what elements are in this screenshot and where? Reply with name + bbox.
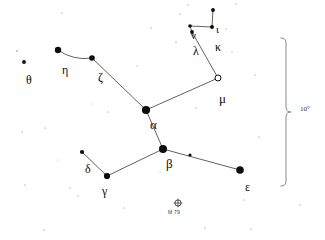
scale-label: 10°	[300, 106, 310, 113]
background-star	[58, 160, 59, 161]
dso-m79[interactable]	[174, 199, 183, 208]
scale-brace	[281, 38, 291, 186]
star-label-gamma: γ	[102, 185, 107, 197]
background-star	[180, 14, 181, 15]
background-star	[300, 205, 301, 206]
background-star	[25, 185, 26, 186]
dso-label-m79: M 79	[168, 210, 180, 215]
star-iota[interactable]	[211, 8, 215, 12]
star-kappa[interactable]	[210, 25, 214, 29]
background-star	[255, 75, 256, 76]
background-star	[70, 188, 71, 189]
background-star	[250, 228, 251, 229]
star-epsilon[interactable]	[236, 166, 244, 174]
background-star	[137, 66, 138, 67]
background-star	[196, 108, 197, 109]
star-layer	[22, 8, 244, 179]
background-star	[16, 50, 17, 51]
star-beta-epsilon-midstar[interactable]	[188, 153, 191, 156]
star-label-lambda: λ	[193, 45, 199, 57]
star-gamma[interactable]	[104, 173, 110, 179]
constellation-line-eta-zeta	[58, 50, 92, 59]
star-beta[interactable]	[159, 145, 167, 153]
star-chart: αβγδεζηθικλνμM 7910°	[0, 0, 325, 240]
scale-brace-layer	[281, 38, 291, 186]
constellation-line-beta-epsilon	[163, 149, 240, 170]
background-star	[236, 4, 237, 5]
sky-canvas	[0, 0, 325, 240]
star-theta[interactable]	[22, 60, 26, 64]
background-star	[108, 112, 109, 113]
background-star	[175, 41, 176, 42]
star-label-zeta: ζ	[98, 71, 103, 83]
background-star	[232, 52, 233, 53]
background-star	[78, 196, 79, 197]
background-star	[124, 208, 125, 209]
constellation-line-alpha-mu	[146, 78, 218, 110]
star-eta[interactable]	[55, 47, 61, 53]
star-nu[interactable]	[188, 24, 192, 28]
constellation-line-beta-gamma	[107, 149, 163, 176]
star-label-alpha: α	[150, 118, 157, 131]
constellation-line-zeta-alpha	[92, 58, 146, 110]
star-label-kappa: κ	[215, 41, 221, 53]
background-star	[258, 136, 259, 137]
star-label-iota: ι	[216, 24, 219, 35]
constellation-line-layer	[58, 10, 240, 176]
constellation-line-kappa-iota	[212, 10, 213, 27]
background-star	[43, 229, 44, 230]
star-label-nu: ν	[191, 30, 196, 41]
background-star	[92, 104, 93, 105]
star-label-eta: η	[62, 64, 68, 76]
star-delta[interactable]	[80, 150, 84, 154]
star-zeta[interactable]	[89, 55, 95, 61]
star-label-mu: μ	[219, 92, 226, 105]
star-label-theta: θ	[26, 74, 32, 86]
background-star	[188, 5, 189, 6]
background-star	[205, 228, 206, 229]
background-star	[244, 200, 245, 201]
star-label-beta: β	[166, 157, 173, 170]
star-label-epsilon: ε	[245, 181, 250, 193]
background-star	[226, 29, 227, 30]
deep-sky-object-layer	[174, 199, 183, 208]
background-star-layer	[16, 4, 300, 231]
star-label-delta: δ	[85, 163, 91, 175]
star-alpha[interactable]	[142, 106, 150, 114]
background-star	[62, 13, 63, 14]
star-mu[interactable]	[215, 75, 221, 81]
background-star	[21, 131, 22, 132]
constellation-line-nu-kappa	[190, 26, 212, 27]
background-star	[151, 28, 152, 29]
background-star	[45, 128, 46, 129]
background-star	[160, 172, 161, 173]
